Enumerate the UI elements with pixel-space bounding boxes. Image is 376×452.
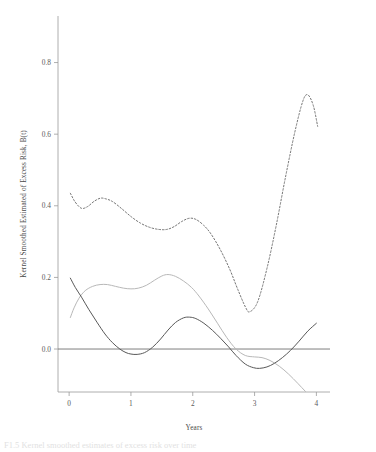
x-tick-label: 2 — [191, 399, 195, 408]
x-tick-label: 1 — [129, 399, 133, 408]
data-series-group — [70, 95, 317, 402]
y-axis-ticks: 0.00.20.40.60.8 — [42, 58, 58, 353]
x-tick-label: 4 — [315, 399, 319, 408]
series-line-dashed-upper-estimate — [70, 95, 317, 312]
chart-canvas: 0.00.20.40.60.8 01234 Years Kernel Smoot… — [0, 0, 376, 452]
figure-caption: F1.5 Kernel smoothed estimates of excess… — [0, 438, 376, 452]
series-line-solid-dark-estimate — [70, 278, 316, 368]
y-tick-label: 0.6 — [42, 130, 52, 139]
x-axis-title: Years — [186, 424, 203, 432]
x-tick-label: 0 — [67, 399, 71, 408]
y-tick-label: 0.0 — [42, 345, 52, 354]
y-tick-label: 0.2 — [42, 273, 52, 282]
x-tick-label: 3 — [253, 399, 257, 408]
y-tick-label: 0.8 — [42, 58, 52, 67]
series-line-solid-light-estimate — [70, 275, 316, 402]
y-tick-label: 0.4 — [42, 201, 52, 210]
y-axis-title: Kernel Smoothed Estimated of Excess Risk… — [20, 130, 28, 278]
x-axis-ticks: 01234 — [67, 392, 318, 408]
figure-container: 0.00.20.40.60.8 01234 Years Kernel Smoot… — [0, 0, 376, 452]
